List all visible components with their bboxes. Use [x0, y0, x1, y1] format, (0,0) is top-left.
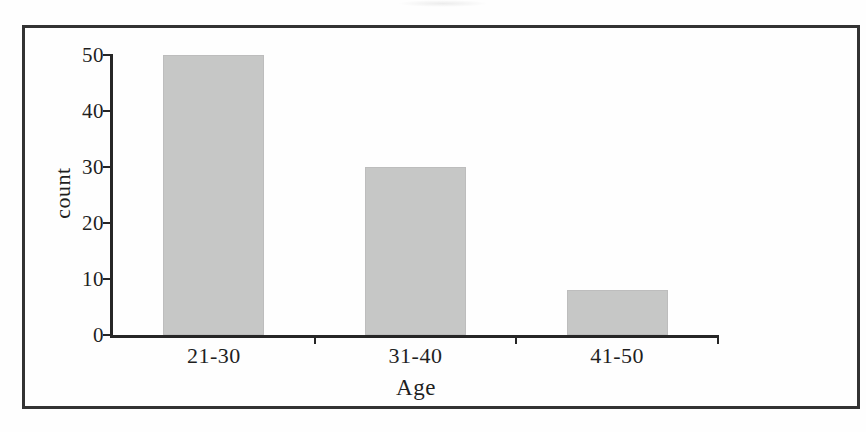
bar-chart-plot: count Age 0102030405021-3031-4041-50: [0, 0, 866, 432]
y-tick-label: 40: [56, 101, 104, 122]
bar-21-30: [163, 55, 264, 335]
x-tick-mark: [717, 338, 719, 344]
x-tick-mark: [515, 338, 517, 344]
y-tick-label: 0: [56, 325, 104, 346]
y-tick-label: 10: [56, 269, 104, 290]
scanned-bar-chart-figure: count Age 0102030405021-3031-4041-50: [0, 0, 866, 432]
y-tick-label: 20: [56, 213, 104, 234]
x-axis-title: Age: [396, 376, 436, 399]
x-tick-label: 21-30: [187, 344, 241, 368]
x-tick-label: 31-40: [389, 344, 443, 368]
x-axis-line: [110, 335, 719, 338]
bar-31-40: [365, 167, 466, 335]
x-tick-label: 41-50: [590, 344, 644, 368]
y-tick-label: 50: [56, 45, 104, 66]
bar-41-50: [567, 290, 668, 335]
y-tick-label: 30: [56, 157, 104, 178]
y-axis-line: [110, 54, 113, 338]
x-tick-mark: [314, 338, 316, 344]
